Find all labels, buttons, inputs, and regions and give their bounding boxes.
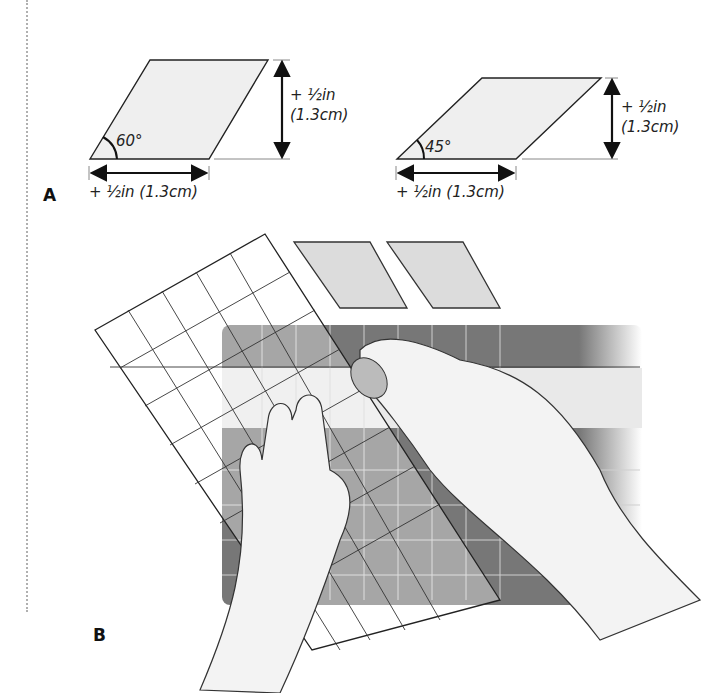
cutting-scene [95, 234, 700, 693]
height-label-60-line1: + ½in [290, 85, 336, 105]
figure-label-a: A [43, 185, 56, 205]
width-label-45: + ½in (1.3cm) [396, 182, 505, 202]
height-label-45-line1: + ½in [621, 97, 667, 117]
diamond-60-degree [89, 60, 290, 180]
angle-label-45: 45° [425, 137, 452, 157]
figure-label-b: B [93, 625, 106, 645]
width-label-60: + ½in (1.3cm) [89, 182, 198, 202]
height-label-45-line2: (1.3cm) [621, 117, 679, 137]
illustration-canvas [0, 0, 720, 693]
angle-label-60: 60° [116, 131, 143, 151]
diamond-45-degree [396, 78, 618, 180]
height-label-60-line2: (1.3cm) [290, 105, 348, 125]
